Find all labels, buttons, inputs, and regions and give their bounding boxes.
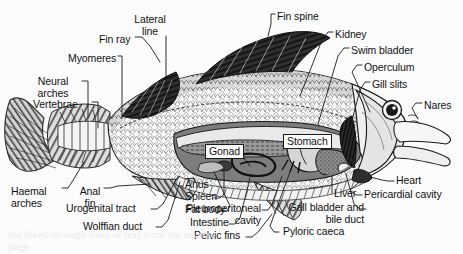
label-vertebrae: Vertebrae xyxy=(33,99,78,111)
label-kidney: Kidney xyxy=(335,29,367,41)
label-spleen: Spleen xyxy=(185,191,217,203)
caudal-peduncle-art xyxy=(48,104,111,168)
label-nares: Nares xyxy=(424,100,452,112)
label-operculum: Operculum xyxy=(364,62,414,74)
label-urogenital-tract: Urogenital tract xyxy=(66,203,136,215)
label-liver: Liver xyxy=(334,188,356,200)
label-neural-arches: Neural arches xyxy=(23,76,83,99)
label-gall-bladder-bile-duct: Gall bladder and bile duct xyxy=(272,202,364,225)
label-fin-ray: Fin ray xyxy=(99,34,130,46)
label-gonad: Gonad xyxy=(205,144,244,159)
label-heart: Heart xyxy=(396,175,421,187)
label-intestine: Intestine xyxy=(190,217,229,229)
label-stomach: Stomach xyxy=(283,134,332,149)
page-bleed-through-text: the bleed-through lines of text from the… xyxy=(8,228,238,252)
label-pyloric-caeca: Pyloric caeca xyxy=(283,226,344,238)
label-anus: Anus xyxy=(185,179,209,191)
label-pericardial-cavity: Pericardial cavity xyxy=(364,189,442,201)
label-haemal-arches: Haemal arches xyxy=(11,186,47,209)
label-gill-slits: Gill slits xyxy=(372,79,407,91)
fish-anatomy-figure: Lateral line Fin spine Fin ray Kidney My… xyxy=(0,0,463,254)
label-myomeres: Myomeres xyxy=(68,53,116,65)
label-fin-spine: Fin spine xyxy=(277,11,319,23)
label-swim-bladder: Swim bladder xyxy=(351,45,413,57)
